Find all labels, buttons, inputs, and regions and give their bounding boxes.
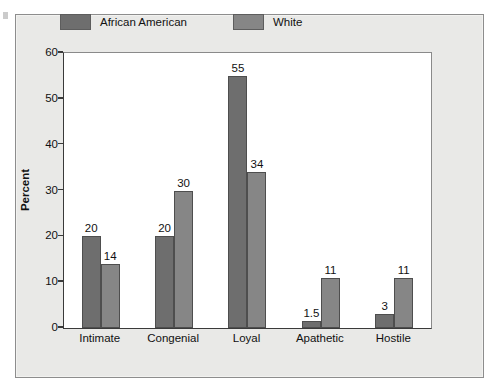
bar-value-label: 11 <box>398 264 410 276</box>
bar-white: 11 <box>321 278 340 328</box>
bar-group: 311 <box>358 53 431 328</box>
bar-rect <box>101 264 120 328</box>
bar-value-label: 20 <box>85 222 98 234</box>
y-axis-title-text: Percent <box>19 168 31 210</box>
x-axis-category-label: Intimate <box>63 332 136 344</box>
bar-white: 30 <box>174 191 193 329</box>
chart-legend: African American White <box>60 14 302 30</box>
bar-rect <box>174 191 193 329</box>
bar-african-american: 3 <box>375 314 394 328</box>
bar-rect <box>394 278 413 328</box>
bar-group: 5534 <box>211 53 284 328</box>
bar-value-label: 55 <box>232 62 245 74</box>
bar-rect <box>302 321 321 328</box>
bar-african-american: 20 <box>155 236 174 328</box>
bar-value-label: 1.5 <box>303 307 319 319</box>
scan-artifact-mark <box>3 12 8 19</box>
bar-white: 34 <box>247 172 266 328</box>
legend-swatch-african-american <box>60 14 91 30</box>
bar-white: 14 <box>101 264 120 328</box>
bar-value-label: 3 <box>382 300 388 312</box>
legend-item-african-american: African American <box>60 14 187 30</box>
bar-value-label: 34 <box>251 158 264 170</box>
legend-swatch-white <box>233 14 264 30</box>
bar-rect <box>375 314 394 328</box>
y-axis-title: Percent <box>17 52 33 327</box>
x-axis-category-label: Loyal <box>210 332 283 344</box>
legend-label-white: White <box>273 16 302 28</box>
bar-white: 11 <box>394 278 413 328</box>
bar-african-american: 20 <box>82 236 101 328</box>
chart-screenshot: African American White Percent 010203040… <box>0 0 503 391</box>
bar-value-label: 20 <box>158 222 171 234</box>
bar-group: 2030 <box>137 53 210 328</box>
bar-group: 2014 <box>64 53 137 328</box>
bar-african-american: 55 <box>228 76 247 328</box>
bar-african-american: 1.5 <box>302 321 321 328</box>
legend-item-white: White <box>233 14 302 30</box>
bar-group: 1.511 <box>284 53 357 328</box>
bar-rect <box>155 236 174 328</box>
bar-rect <box>228 76 247 328</box>
plot-area: 2014203055341.511311 <box>63 52 432 329</box>
bar-value-label: 14 <box>104 250 117 262</box>
bar-value-label: 11 <box>324 264 336 276</box>
bar-rect <box>321 278 340 328</box>
x-axis-category-label: Apathetic <box>283 332 356 344</box>
bar-rect <box>82 236 101 328</box>
legend-label-african-american: African American <box>100 16 187 28</box>
x-axis-category-label: Hostile <box>357 332 430 344</box>
x-axis-category-label: Congenial <box>136 332 209 344</box>
bar-rect <box>247 172 266 328</box>
bar-value-label: 30 <box>177 177 190 189</box>
